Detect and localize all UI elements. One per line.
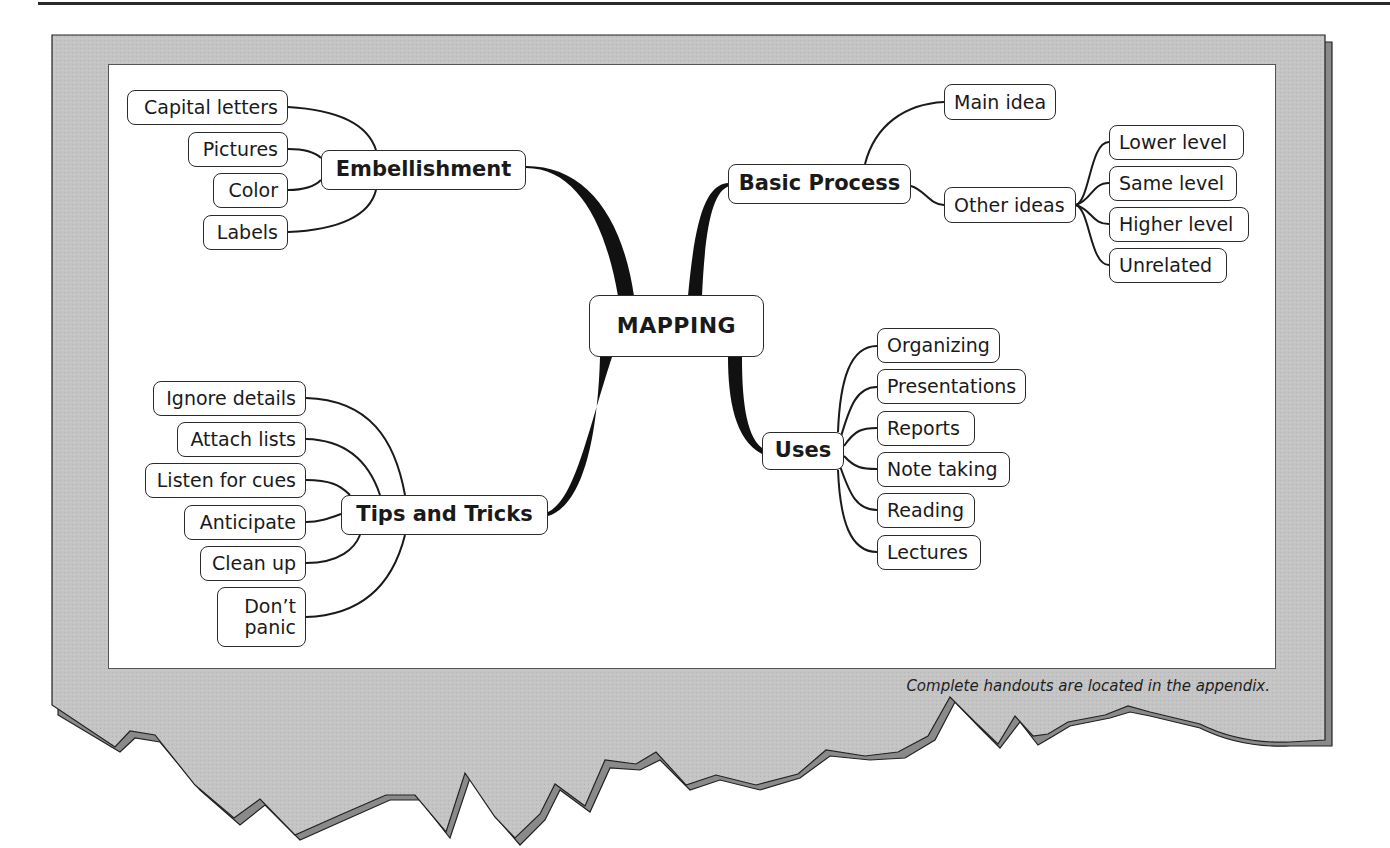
- branch-uses[interactable]: Uses: [762, 432, 844, 470]
- leaf-labels[interactable]: Labels: [203, 215, 288, 250]
- leaf-reports[interactable]: Reports: [877, 411, 975, 446]
- appendix-caption: Complete handouts are located in the app…: [906, 677, 1270, 695]
- leaf-same-level[interactable]: Same level: [1109, 166, 1237, 201]
- leaf-unrelated[interactable]: Unrelated: [1109, 248, 1227, 283]
- leaf-lower-level[interactable]: Lower level: [1109, 125, 1244, 160]
- leaf-color[interactable]: Color: [213, 173, 288, 208]
- leaf-higher-level[interactable]: Higher level: [1109, 207, 1249, 242]
- leaf-lectures[interactable]: Lectures: [877, 535, 981, 570]
- leaf-presentations[interactable]: Presentations: [877, 369, 1026, 404]
- leaf-dont-panic-line-1: Don’t: [244, 596, 296, 617]
- leaf-attach-lists[interactable]: Attach lists: [177, 422, 306, 457]
- leaf-dont-panic-line-2: panic: [245, 617, 296, 638]
- leaf-pictures[interactable]: Pictures: [188, 132, 288, 167]
- leaf-note-taking[interactable]: Note taking: [877, 452, 1010, 487]
- center-node-mapping[interactable]: MAPPING: [589, 295, 764, 357]
- leaf-main-idea[interactable]: Main idea: [944, 84, 1056, 120]
- leaf-reading[interactable]: Reading: [877, 493, 975, 528]
- branch-tips-and-tricks[interactable]: Tips and Tricks: [341, 495, 548, 535]
- leaf-listen-for-cues[interactable]: Listen for cues: [145, 463, 306, 498]
- leaf-organizing[interactable]: Organizing: [877, 328, 1000, 363]
- branch-embellishment[interactable]: Embellishment: [321, 150, 526, 190]
- leaf-dont-panic[interactable]: Don’t panic: [217, 587, 306, 647]
- leaf-clean-up[interactable]: Clean up: [200, 546, 306, 581]
- branch-basic-process[interactable]: Basic Process: [728, 164, 911, 204]
- leaf-ignore-details[interactable]: Ignore details: [153, 381, 306, 416]
- leaf-anticipate[interactable]: Anticipate: [184, 505, 306, 540]
- leaf-capital-letters[interactable]: Capital letters: [127, 90, 288, 125]
- leaf-other-ideas[interactable]: Other ideas: [944, 187, 1076, 223]
